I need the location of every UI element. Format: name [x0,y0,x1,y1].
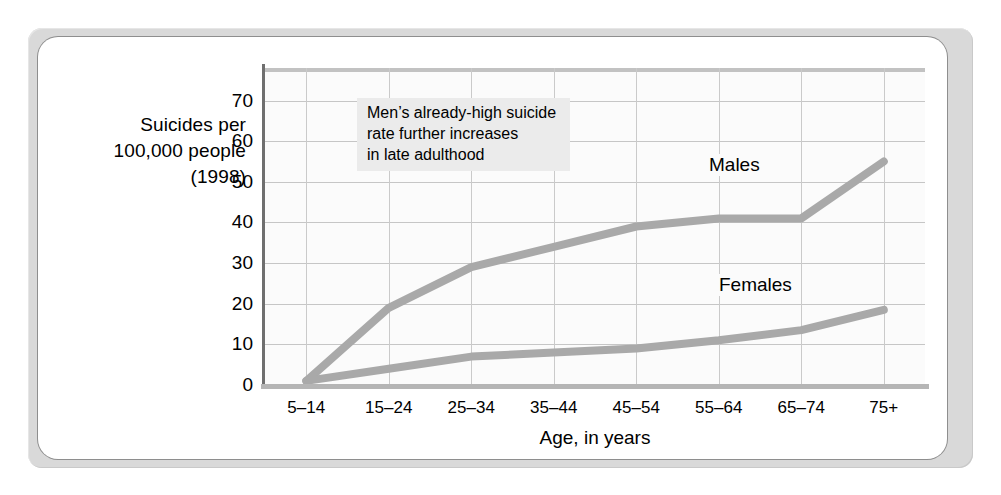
annotation-line-1: Men’s already-high suicide [367,102,556,123]
y-tick-label-10: 10 [205,333,253,355]
annotation-line-2: rate further increases [367,123,556,144]
series-label-males: Males [705,154,764,176]
x-tick-label-75+: 75+ [834,398,934,418]
plot-area: Men’s already-high suicide rate further … [265,68,925,385]
y-tick-label-0: 0 [205,374,253,396]
annotation-line-3: in late adulthood [367,144,556,165]
series-line-females [306,310,884,381]
x-axis-title: Age, in years [265,427,925,449]
y-tick-label-70: 70 [205,90,253,112]
x-axis-line [261,384,929,389]
y-tick-label-60: 60 [205,130,253,152]
y-tick-label-40: 40 [205,211,253,233]
annotation-males-late-adulthood: Men’s already-high suicide rate further … [357,98,570,171]
y-tick-label-30: 30 [205,252,253,274]
y-axis-line [262,64,265,385]
y-tick-label-20: 20 [205,293,253,315]
y-tick-label-50: 50 [205,171,253,193]
series-label-females: Females [715,274,796,296]
